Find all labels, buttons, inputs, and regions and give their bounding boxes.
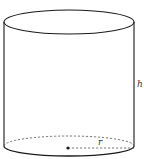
height-label: h [137, 79, 143, 89]
center-point [66, 146, 69, 149]
top-ellipse [4, 10, 134, 34]
bottom-back-arc [4, 136, 134, 146]
radius-label: r [98, 137, 103, 147]
cylinder-diagram: r h [0, 0, 144, 159]
